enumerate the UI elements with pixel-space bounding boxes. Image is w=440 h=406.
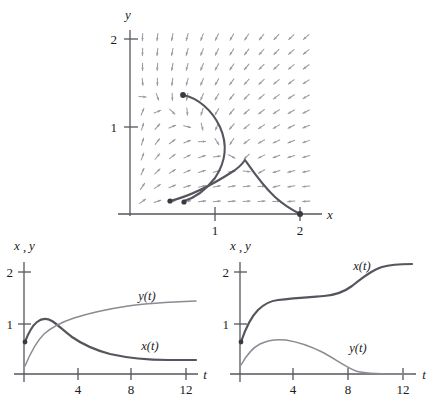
right-ttick-label-4: 4 (290, 382, 297, 397)
field-arrowhead (262, 200, 265, 203)
phase-xtick-label-1: 1 (212, 223, 219, 238)
figure-svg: 2 1 1 2 y x 2 1 4 8 1 (0, 0, 440, 406)
phase-ylabel: y (123, 7, 131, 22)
phase-ytick-label-2: 2 (111, 32, 118, 47)
field-arrowhead (303, 141, 306, 143)
right-label-y: y(t) (347, 341, 366, 355)
field-arrowhead (247, 200, 250, 203)
right-curve-x (241, 264, 412, 342)
field-arrowhead (142, 123, 145, 126)
field-arrowhead (142, 153, 144, 156)
phase-xlabel: x (326, 207, 333, 222)
phase-end-dot-1 (181, 199, 186, 204)
field-arrowhead (158, 200, 161, 203)
right-ylabel-x: x (229, 238, 236, 253)
field-arrowhead (156, 97, 158, 100)
left-curve-x (25, 319, 196, 360)
left-ytick-label-1: 1 (7, 317, 14, 332)
left-ttick-label-8: 8 (128, 382, 135, 397)
left-label-y: y(t) (136, 289, 155, 303)
right-time-series-plot: 2 1 4 8 12 x , y t x(t) y(t) (223, 238, 427, 397)
left-label-x: x(t) (140, 339, 158, 353)
left-xlabel: t (203, 367, 207, 382)
phase-start-dot-2 (167, 198, 172, 203)
right-ytick-label-2: 2 (223, 265, 230, 280)
right-curve-y (241, 340, 412, 374)
right-xlabel: t (422, 367, 426, 382)
phase-start-dot-1 (180, 92, 186, 98)
phase-portrait: 2 1 1 2 y x (111, 7, 334, 238)
right-label-x: x(t) (352, 259, 370, 273)
right-ylabel-comma: , (239, 239, 242, 254)
left-curve-y (25, 301, 196, 366)
left-ttick-label-4: 4 (75, 382, 82, 397)
phase-xtick-label-2: 2 (297, 223, 304, 238)
phase-trajectory-1 (183, 95, 225, 201)
field-arrowhead (171, 98, 174, 101)
field-arrowhead (141, 68, 144, 71)
left-ylabel-y: y (27, 238, 35, 253)
right-ttick-label-8: 8 (345, 382, 352, 397)
field-arrowhead (156, 83, 159, 86)
right-ttick-label-12: 12 (397, 382, 410, 397)
field-arrowhead (288, 155, 291, 158)
field-arrowhead (288, 200, 291, 203)
field-arrowhead (202, 155, 205, 158)
field-arrowhead (203, 140, 206, 143)
field-arrowhead (143, 96, 146, 99)
phase-ytick-label-1: 1 (111, 120, 118, 135)
field-arrowhead (156, 68, 159, 71)
left-ttick-label-12: 12 (180, 382, 193, 397)
field-arrowhead (232, 200, 235, 203)
field-arrowhead (188, 185, 191, 188)
left-ylabel-x: x (13, 238, 20, 253)
figure-container: 2 1 1 2 y x 2 1 4 8 1 (0, 0, 440, 406)
right-ytick-label-1: 1 (223, 317, 230, 332)
left-start-dot-x (23, 340, 28, 345)
field-arrowhead (142, 138, 145, 141)
field-arrowhead (141, 53, 144, 56)
field-arrowhead (141, 38, 144, 41)
left-ytick-label-2: 2 (7, 265, 14, 280)
left-ylabel-comma: , (23, 239, 26, 254)
field-arrowhead (303, 200, 306, 203)
left-time-series-plot: 2 1 4 8 12 x , y t y(t) x(t) (7, 238, 208, 397)
right-ylabel: x , y (229, 238, 251, 254)
right-ylabel-y: y (243, 238, 251, 253)
right-start-dot-x (239, 340, 244, 345)
phase-trajectory-2 (170, 160, 300, 214)
phase-end-dot-2 (297, 211, 303, 217)
field-arrowhead (202, 170, 205, 173)
left-ylabel: x , y (13, 238, 35, 254)
